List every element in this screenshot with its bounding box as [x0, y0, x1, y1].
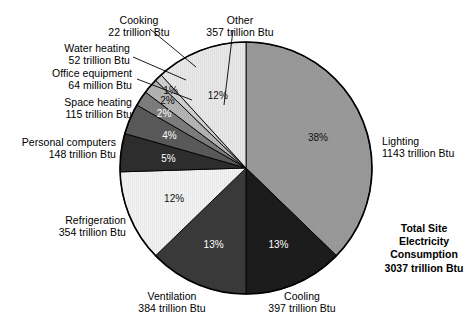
total-line-2: Electricity — [378, 235, 470, 248]
callout-other: Other 357 trillion Btu — [185, 14, 295, 39]
callout-ventilation: Ventilation 384 trillion Btu — [116, 290, 228, 315]
callout-water-heating: Water heating 52 trillion Btu — [24, 42, 130, 67]
callout-refrigeration: Refrigeration 354 trillion Btu — [18, 214, 126, 239]
pie-percent-label-refrigeration: 12% — [164, 193, 184, 204]
callout-space-heating: Space heating 115 trillion Btu — [20, 96, 132, 121]
total-line-3: Consumption — [378, 248, 470, 261]
callout-office-equipment-value: 64 million Btu — [6, 79, 132, 91]
callout-lighting: Lighting 1143 trillion Btu — [382, 135, 470, 160]
pie-percent-label-lighting: 38% — [308, 132, 328, 143]
callout-office-equipment: Office equipment 64 million Btu — [6, 67, 132, 92]
pie-texture-overlay — [120, 42, 372, 294]
callout-personal-computers-name: Personal computers — [2, 136, 116, 148]
pie-percent-label-personal-computers: 5% — [161, 153, 176, 164]
total-consumption-box: Total Site Electricity Consumption 3037 … — [378, 222, 470, 275]
pie-percent-label-cooling: 13% — [268, 239, 288, 250]
callout-space-heating-value: 115 trillion Btu — [20, 108, 132, 120]
callout-refrigeration-value: 354 trillion Btu — [18, 226, 126, 238]
callout-ventilation-name: Ventilation — [116, 290, 228, 302]
callout-lighting-value: 1143 trillion Btu — [382, 147, 470, 159]
callout-office-equipment-name: Office equipment — [6, 67, 132, 79]
callout-cooling: Cooling 397 trillion Btu — [246, 290, 358, 315]
callout-cooling-name: Cooling — [246, 290, 358, 302]
callout-ventilation-value: 384 trillion Btu — [116, 302, 228, 314]
callout-water-heating-name: Water heating — [24, 42, 130, 54]
callout-other-name: Other — [185, 14, 295, 26]
callout-water-heating-value: 52 trillion Btu — [24, 54, 130, 66]
callout-refrigeration-name: Refrigeration — [18, 214, 126, 226]
callout-space-heating-name: Space heating — [20, 96, 132, 108]
callout-cooking: Cooking 22 trillion Btu — [86, 14, 192, 39]
total-line-1: Total Site — [378, 222, 470, 235]
callout-personal-computers-value: 148 trillion Btu — [2, 148, 116, 160]
pie-chart-figure: 38%13%13%12%5%4%2%2%1%12% Cooking 22 tri… — [0, 0, 470, 328]
pie-percent-label-space-heating: 4% — [162, 130, 177, 141]
callout-cooking-name: Cooking — [86, 14, 192, 26]
callout-cooling-value: 397 trillion Btu — [246, 302, 358, 314]
callout-personal-computers: Personal computers 148 trillion Btu — [2, 136, 116, 161]
callout-other-value: 357 trillion Btu — [185, 26, 295, 38]
pie-percent-label-office-equipment: 2% — [157, 108, 172, 119]
pie-percent-label-water-heating: 2% — [160, 95, 175, 106]
callout-lighting-name: Lighting — [382, 135, 470, 147]
total-line-4: 3037 trillion Btu — [378, 262, 470, 275]
pie-percent-label-ventilation: 13% — [204, 239, 224, 250]
callout-cooking-value: 22 trillion Btu — [86, 26, 192, 38]
